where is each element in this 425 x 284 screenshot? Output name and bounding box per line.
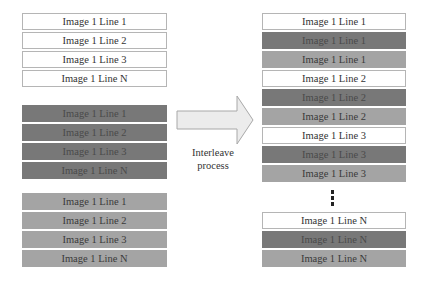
right-row-9: Image 1 Line 3 <box>262 165 406 182</box>
vertical-ellipsis-icon <box>331 190 334 208</box>
left-white-row-2: Image 1 Line 2 <box>22 32 167 49</box>
left-light-row-3: Image 1 Line 3 <box>22 231 167 248</box>
left-light-row-n: Image 1 Line N <box>22 250 167 267</box>
label-line-2: process <box>183 159 243 172</box>
left-light-row-2: Image 1 Line 2 <box>22 212 167 229</box>
right-row-4: Image 1 Line 2 <box>262 70 406 87</box>
left-white-row-1: Image 1 Line 1 <box>22 13 167 30</box>
right-row-6: Image 1 Line 2 <box>262 108 406 125</box>
right-row-7: Image 1 Line 3 <box>262 127 406 144</box>
left-white-row-3: Image 1 Line 3 <box>22 51 167 68</box>
right-row-12: Image 1 Line N <box>262 250 406 267</box>
right-row-5: Image 1 Line 2 <box>262 89 406 106</box>
right-row-3: Image 1 Line 1 <box>262 51 406 68</box>
interleave-process-label: Interleave process <box>183 146 243 172</box>
left-white-row-n: Image 1 Line N <box>22 70 167 87</box>
left-dark-row-2: Image 1 Line 2 <box>22 124 167 141</box>
right-row-10: Image 1 Line N <box>262 212 406 229</box>
right-row-1: Image 1 Line 1 <box>262 13 406 30</box>
right-row-2: Image 1 Line 1 <box>262 32 406 49</box>
left-light-row-1: Image 1 Line 1 <box>22 193 167 210</box>
label-line-1: Interleave <box>183 146 243 159</box>
left-dark-row-1: Image 1 Line 1 <box>22 105 167 122</box>
left-dark-row-n: Image 1 Line N <box>22 162 167 179</box>
left-dark-row-3: Image 1 Line 3 <box>22 143 167 160</box>
right-arrow-icon <box>176 94 256 146</box>
right-row-11: Image 1 Line N <box>262 231 406 248</box>
right-row-8: Image 1 Line 3 <box>262 146 406 163</box>
